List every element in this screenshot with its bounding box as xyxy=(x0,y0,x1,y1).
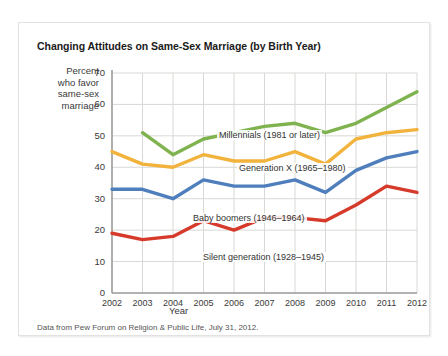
x-axis-tick-label: 2010 xyxy=(341,298,371,308)
y-axis-tick-label: 60 xyxy=(83,98,105,109)
series-annotation-label: Silent generation (1928–1945) xyxy=(201,252,326,262)
series-annotation-label: Millennials (1981 or later) xyxy=(217,130,322,140)
series-line xyxy=(143,92,418,155)
y-axis-label-line-2: who favor xyxy=(27,77,99,89)
x-axis-tick-label: 2012 xyxy=(402,298,432,308)
series-annotation-label: Baby boomers (1946–1964) xyxy=(191,213,307,223)
y-axis-tick-label: 10 xyxy=(83,256,105,267)
x-axis-tick-label: 2011 xyxy=(372,298,402,308)
x-axis-tick-label: 2002 xyxy=(97,298,127,308)
chart-plot-area: Percent who favor same-sex marriage 0102… xyxy=(19,23,431,337)
series-annotation-label: Generation X (1965–1980) xyxy=(237,163,348,173)
x-axis-tick-label: 2003 xyxy=(128,298,158,308)
x-axis-tick-label: 2005 xyxy=(189,298,219,308)
x-axis-tick-label: 2008 xyxy=(280,298,310,308)
figure-card: Changing Attitudes on Same-Sex Marriage … xyxy=(18,22,430,336)
y-axis-tick-label: 30 xyxy=(83,193,105,204)
y-axis-tick-label: 70 xyxy=(83,67,105,78)
x-axis-tick-label: 2009 xyxy=(311,298,341,308)
x-axis-label: Year xyxy=(169,305,188,316)
y-axis-tick-label: 20 xyxy=(83,224,105,235)
x-axis-tick-label: 2006 xyxy=(219,298,249,308)
y-axis-tick-label: 40 xyxy=(83,161,105,172)
source-note: Data from Pew Forum on Religion & Public… xyxy=(37,323,258,332)
y-axis-tick-label: 0 xyxy=(83,287,105,298)
x-axis-tick-label: 2007 xyxy=(250,298,280,308)
y-axis-tick-label: 50 xyxy=(83,130,105,141)
